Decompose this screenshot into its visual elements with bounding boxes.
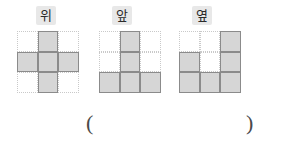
answer-open-paren: ( (86, 104, 93, 142)
grid-cell-empty (140, 52, 161, 73)
grid-cell-filled (38, 52, 59, 73)
grid-cell-filled (99, 72, 120, 93)
worksheet-canvas: 위 앞 옆 ( ) (0, 0, 281, 142)
grid-cell-filled (38, 72, 59, 93)
grid-cell-empty (200, 52, 221, 73)
figure-label-front: 앞 (112, 6, 132, 25)
grid-cell-empty (179, 31, 200, 52)
answer-close-paren: ) (246, 104, 253, 142)
figure-label-top: 위 (36, 6, 56, 25)
grid-cell-filled (120, 52, 141, 73)
figure-grid-front (99, 31, 161, 93)
grid-cell-filled (179, 52, 200, 73)
grid-cell-empty (58, 31, 79, 52)
grid-cell-filled (140, 72, 161, 93)
grid-cell-empty (99, 52, 120, 73)
figure-grid-top (17, 31, 79, 93)
grid-cell-filled (17, 52, 38, 73)
grid-cell-filled (38, 31, 59, 52)
grid-cell-empty (58, 72, 79, 93)
grid-cell-filled (120, 72, 141, 93)
grid-cell-filled (120, 31, 141, 52)
grid-cell-filled (220, 72, 241, 93)
grid-cell-empty (99, 31, 120, 52)
grid-cell-empty (17, 72, 38, 93)
grid-cell-filled (179, 72, 200, 93)
grid-cell-filled (58, 52, 79, 73)
figure-label-side: 옆 (192, 6, 212, 25)
answer-row: ( ) (0, 104, 281, 142)
grid-cell-empty (140, 31, 161, 52)
grid-cell-filled (220, 31, 241, 52)
grid-cell-empty (17, 31, 38, 52)
grid-cell-filled (220, 52, 241, 73)
grid-cell-empty (200, 31, 221, 52)
grid-cell-filled (200, 72, 221, 93)
figure-grid-side (179, 31, 241, 93)
